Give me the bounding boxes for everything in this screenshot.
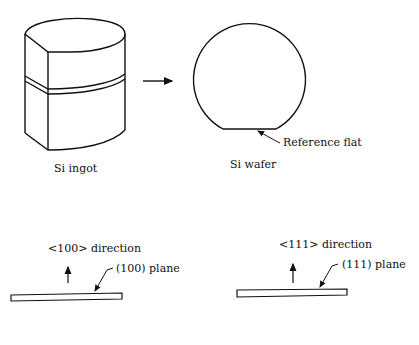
wafer-111	[237, 264, 347, 297]
wafer-label: Si wafer	[230, 158, 277, 171]
ingot-label: Si ingot	[54, 162, 98, 175]
direction-100-label: <100> direction	[48, 242, 141, 255]
reference-flat-label: Reference flat	[283, 136, 362, 149]
reference-flat-leader	[258, 131, 280, 143]
direction-111-label: <111> direction	[279, 238, 372, 251]
si-ingot	[25, 18, 125, 150]
plane-111-label: (111) plane	[342, 258, 406, 271]
silicon-wafer-diagram: Si ingot Reference flat Si wafer <100> d…	[0, 0, 419, 345]
si-wafer	[194, 24, 306, 129]
plane-100-label: (100) plane	[116, 262, 180, 275]
wafer-100	[11, 267, 122, 301]
